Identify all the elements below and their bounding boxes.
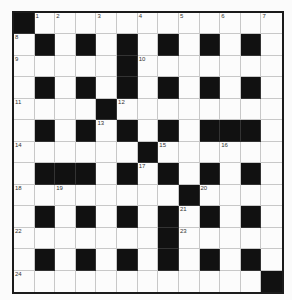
- crossword-cell[interactable]: [241, 56, 262, 77]
- crossword-cell[interactable]: 11: [14, 99, 35, 120]
- crossword-cell[interactable]: [14, 249, 35, 270]
- crossword-cell[interactable]: [55, 99, 76, 120]
- crossword-cell[interactable]: [76, 13, 97, 34]
- crossword-cell[interactable]: 8: [14, 34, 35, 55]
- crossword-cell[interactable]: 15: [158, 142, 179, 163]
- crossword-cell[interactable]: 21: [179, 206, 200, 227]
- crossword-cell[interactable]: [158, 271, 179, 292]
- crossword-cell[interactable]: [117, 142, 138, 163]
- crossword-cell[interactable]: [138, 99, 159, 120]
- crossword-cell[interactable]: [200, 228, 221, 249]
- crossword-cell[interactable]: [117, 271, 138, 292]
- crossword-cell[interactable]: [76, 142, 97, 163]
- crossword-cell[interactable]: 19: [55, 185, 76, 206]
- crossword-cell[interactable]: [241, 142, 262, 163]
- crossword-cell[interactable]: [76, 185, 97, 206]
- crossword-cell[interactable]: 17: [138, 163, 159, 184]
- crossword-cell[interactable]: [35, 99, 56, 120]
- crossword-cell[interactable]: [220, 271, 241, 292]
- crossword-cell[interactable]: [14, 77, 35, 98]
- crossword-cell[interactable]: [55, 77, 76, 98]
- crossword-cell[interactable]: [179, 120, 200, 141]
- crossword-cell[interactable]: [261, 99, 282, 120]
- crossword-cell[interactable]: [96, 77, 117, 98]
- crossword-cell[interactable]: [261, 249, 282, 270]
- crossword-cell[interactable]: [261, 185, 282, 206]
- crossword-cell[interactable]: [179, 99, 200, 120]
- crossword-cell[interactable]: [200, 142, 221, 163]
- crossword-cell[interactable]: [158, 185, 179, 206]
- crossword-cell[interactable]: [138, 206, 159, 227]
- crossword-cell[interactable]: [158, 56, 179, 77]
- crossword-cell[interactable]: [138, 228, 159, 249]
- crossword-cell[interactable]: 22: [14, 228, 35, 249]
- crossword-cell[interactable]: [96, 185, 117, 206]
- crossword-cell[interactable]: [117, 185, 138, 206]
- crossword-cell[interactable]: 7: [261, 13, 282, 34]
- crossword-cell[interactable]: [138, 34, 159, 55]
- crossword-cell[interactable]: [14, 163, 35, 184]
- crossword-cell[interactable]: [14, 206, 35, 227]
- crossword-cell[interactable]: [55, 34, 76, 55]
- crossword-cell[interactable]: [179, 56, 200, 77]
- crossword-cell[interactable]: [117, 228, 138, 249]
- crossword-cell[interactable]: [76, 271, 97, 292]
- crossword-cell[interactable]: [158, 13, 179, 34]
- crossword-cell[interactable]: [261, 120, 282, 141]
- crossword-cell[interactable]: [261, 228, 282, 249]
- crossword-cell[interactable]: [261, 34, 282, 55]
- crossword-cell[interactable]: [96, 271, 117, 292]
- crossword-cell[interactable]: [241, 271, 262, 292]
- crossword-cell[interactable]: [200, 271, 221, 292]
- crossword-cell[interactable]: 6: [220, 13, 241, 34]
- crossword-cell[interactable]: 18: [14, 185, 35, 206]
- crossword-cell[interactable]: [200, 13, 221, 34]
- crossword-cell[interactable]: 16: [220, 142, 241, 163]
- crossword-cell[interactable]: 5: [179, 13, 200, 34]
- crossword-cell[interactable]: [55, 206, 76, 227]
- crossword-cell[interactable]: [35, 56, 56, 77]
- crossword-cell[interactable]: [220, 185, 241, 206]
- crossword-cell[interactable]: [241, 228, 262, 249]
- crossword-cell[interactable]: [76, 228, 97, 249]
- crossword-cell[interactable]: [200, 56, 221, 77]
- crossword-cell[interactable]: [55, 142, 76, 163]
- crossword-cell[interactable]: [220, 249, 241, 270]
- crossword-cell[interactable]: [55, 56, 76, 77]
- crossword-cell[interactable]: [220, 77, 241, 98]
- crossword-cell[interactable]: [76, 56, 97, 77]
- crossword-cell[interactable]: [138, 77, 159, 98]
- crossword-cell[interactable]: [96, 34, 117, 55]
- crossword-cell[interactable]: [179, 163, 200, 184]
- crossword-cell[interactable]: [241, 99, 262, 120]
- crossword-cell[interactable]: [241, 13, 262, 34]
- crossword-cell[interactable]: [117, 13, 138, 34]
- crossword-cell[interactable]: [220, 206, 241, 227]
- crossword-cell[interactable]: [138, 120, 159, 141]
- crossword-cell[interactable]: 2: [55, 13, 76, 34]
- crossword-cell[interactable]: [55, 271, 76, 292]
- crossword-cell[interactable]: [96, 249, 117, 270]
- crossword-cell[interactable]: [179, 249, 200, 270]
- crossword-cell[interactable]: [138, 271, 159, 292]
- crossword-cell[interactable]: [35, 271, 56, 292]
- crossword-cell[interactable]: 13: [96, 120, 117, 141]
- crossword-cell[interactable]: [55, 228, 76, 249]
- crossword-cell[interactable]: [96, 56, 117, 77]
- crossword-cell[interactable]: 20: [200, 185, 221, 206]
- crossword-cell[interactable]: [96, 163, 117, 184]
- crossword-cell[interactable]: 10: [138, 56, 159, 77]
- crossword-cell[interactable]: [220, 99, 241, 120]
- crossword-cell[interactable]: [55, 249, 76, 270]
- crossword-cell[interactable]: 1: [35, 13, 56, 34]
- crossword-cell[interactable]: [220, 56, 241, 77]
- crossword-cell[interactable]: [261, 56, 282, 77]
- crossword-cell[interactable]: 4: [138, 13, 159, 34]
- crossword-cell[interactable]: [76, 99, 97, 120]
- crossword-cell[interactable]: [261, 77, 282, 98]
- crossword-cell[interactable]: [35, 228, 56, 249]
- crossword-cell[interactable]: [179, 77, 200, 98]
- crossword-cell[interactable]: [138, 249, 159, 270]
- crossword-cell[interactable]: [96, 206, 117, 227]
- crossword-cell[interactable]: [179, 271, 200, 292]
